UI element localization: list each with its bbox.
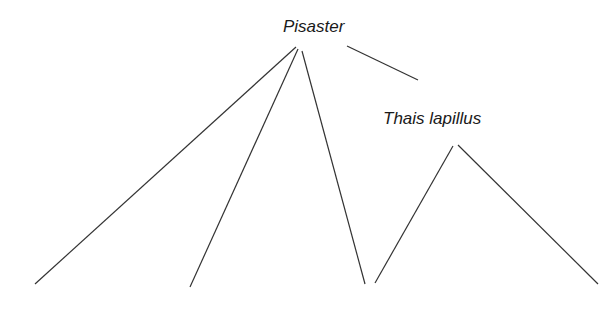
edge-line — [190, 49, 298, 287]
edge-line — [302, 51, 365, 284]
edge-layer — [0, 0, 607, 315]
node-label-thais-lapillus: Thais lapillus — [383, 109, 481, 129]
edge-line — [375, 146, 453, 283]
edge-line — [35, 47, 296, 284]
node-label-pisaster: Pisaster — [283, 17, 344, 37]
food-web-diagram: Pisaster Thais lapillus — [0, 0, 607, 315]
edge-line — [347, 46, 418, 80]
edge-line — [458, 145, 598, 284]
